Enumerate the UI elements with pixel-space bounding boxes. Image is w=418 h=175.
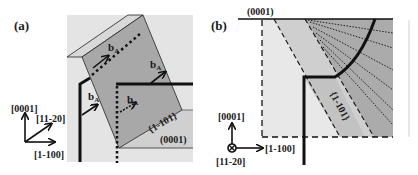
plane-label-0001: (0001) — [160, 134, 187, 146]
plane-label-top-0001: (0001) — [247, 6, 274, 18]
axis-label-11-20: [11-20] — [36, 113, 65, 124]
axis-label-0001: [0001] — [11, 103, 38, 114]
axis-label-b-0001: [0001] — [218, 111, 245, 122]
panel-b-label: (b) — [211, 18, 227, 33]
diagram-canvas: (a) bA bA bA bA {1-101} (0001) — [0, 0, 418, 175]
panel-b: (b) (0001) {1-101} — [211, 6, 409, 167]
panel-a: (a) bA bA bA bA {1-101} (0001) — [11, 15, 193, 163]
axis-label-b-1-100: [1-100] — [265, 143, 295, 154]
axis-arrow-11-20 — [25, 124, 51, 142]
axis-label-b-11-20: [11-20] — [216, 156, 245, 167]
panel-a-label: (a) — [14, 18, 29, 33]
axis-label-1-100: [1-100] — [34, 149, 64, 160]
axes-a: [0001] [11-20] [1-100] — [11, 103, 65, 160]
